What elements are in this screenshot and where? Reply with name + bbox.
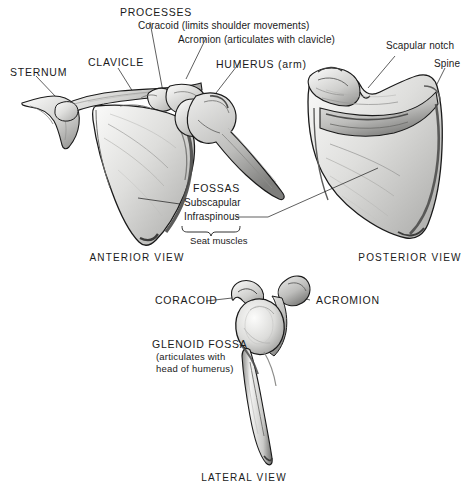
label-coracoid-lateral: CORACOID <box>155 294 218 306</box>
label-fossa-subscapular: Subscapular <box>184 197 241 209</box>
caption-anterior-view: ANTERIOR VIEW <box>82 252 192 264</box>
anatomy-artwork <box>0 0 470 502</box>
shoulder-girdle-figure: PROCESSES Coracoid (limits shoulder move… <box>0 0 470 502</box>
scapula-posterior-illustration <box>308 67 442 238</box>
scapula-lateral-illustration <box>231 276 310 465</box>
label-processes-heading: PROCESSES <box>120 6 192 18</box>
label-spine: Spine <box>434 58 460 70</box>
leader-line-sternum <box>36 76 56 97</box>
label-acromion-process: Acromion (articulates with clavicle) <box>178 34 335 46</box>
label-seat-muscles: Seat muscles <box>190 235 248 246</box>
label-fossas-heading: FOSSAS <box>193 182 240 194</box>
leader-line-scapular-notch <box>368 56 395 88</box>
scapula-edge-lateral <box>242 348 272 464</box>
label-acromion-lateral: ACROMION <box>316 294 380 306</box>
leader-line-processes <box>150 22 163 92</box>
label-clavicle: CLAVICLE <box>88 56 144 68</box>
label-sternum: STERNUM <box>10 66 67 78</box>
scapula-anterior-illustration <box>22 83 284 245</box>
caption-posterior-view: POSTERIOR VIEW <box>352 252 468 264</box>
leader-line-clavicle <box>118 68 133 92</box>
label-scapular-notch: Scapular notch <box>386 40 454 52</box>
label-glenoid-note-line2: head of humerus) <box>156 363 234 374</box>
label-fossa-infraspinous: Infraspinous <box>184 211 240 223</box>
label-humerus: HUMERUS (arm) <box>216 58 307 70</box>
label-glenoid-note-line1: (articulates with <box>156 351 225 362</box>
label-glenoid-fossa: GLENOID FOSSA <box>152 338 248 350</box>
caption-lateral-view: LATERAL VIEW <box>189 472 299 484</box>
label-coracoid-process: Coracoid (limits shoulder movements) <box>138 20 309 32</box>
